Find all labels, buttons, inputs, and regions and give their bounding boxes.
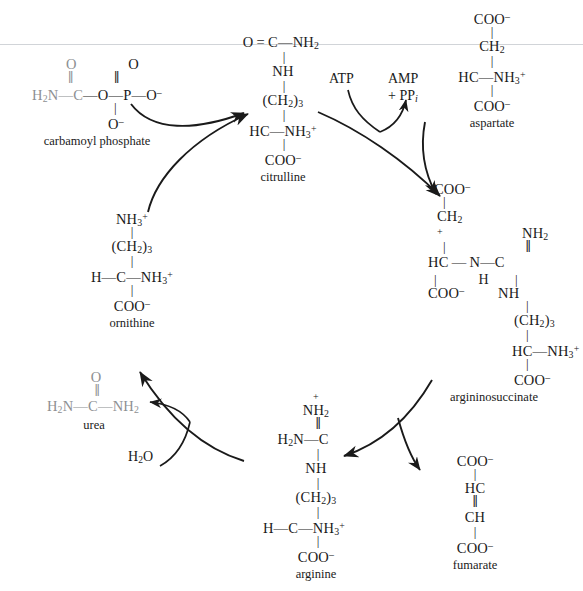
label-urea: urea	[38, 418, 148, 433]
citrulline-ureido-group: O = C—NH2	[222, 33, 340, 51]
carbamoyl-phosphate-carbonyl-oxygen: O O	[8, 55, 186, 73]
label-citrulline: citrulline	[222, 170, 340, 185]
arginine-guanidino-row: H2N—C	[228, 430, 378, 448]
fumarate-bond-1: |	[420, 468, 530, 479]
cofactor-water: H2O	[128, 448, 153, 469]
arginine-bond-1: |	[228, 448, 378, 459]
ornithine-bond-3: |	[72, 284, 192, 295]
citrulline-carboxylate: COO–	[222, 149, 340, 167]
fumarate-bottom-carboxylate: COO–	[420, 537, 530, 555]
arginine-alpha-carbon: H—C—NH3+	[228, 517, 378, 535]
molecule-ornithine: NH3+ | (CH2)3 | H—C—NH3+ | COO– ornithin…	[72, 208, 192, 331]
argininosuccinate-chain: (CH2)3	[420, 311, 583, 329]
ornithine-bond-2: |	[72, 255, 192, 266]
fumarate-double-bond: ∥	[420, 497, 530, 508]
cofactor-amp-line1: AMP	[388, 70, 418, 87]
citrulline-chain: (CH2)3	[222, 91, 340, 109]
molecule-aspartate: COO– | CH2 | HC—NH3+ | COO– aspartate	[432, 8, 550, 131]
label-carbamoyl-phosphate: carbamoyl phosphate	[8, 134, 186, 149]
argininosuccinate-bond-5: |	[420, 329, 583, 340]
arginine-bond-4: |	[228, 535, 378, 546]
molecule-argininosuccinate: COO– | CH2 + NH2 |∥ HC — N—C |H| COO– NH…	[420, 178, 583, 405]
molecule-fumarate: COO– | HC ∥ CH | COO– fumarate	[420, 450, 530, 573]
aspartate-bond-1: |	[432, 26, 550, 37]
carbamoyl-phosphate-lower-oxygen: O–	[8, 113, 186, 131]
ornithine-carboxylate: COO–	[72, 295, 192, 313]
argininosuccinate-chain-carboxylate: COO–	[420, 369, 583, 387]
carbamoyl-phosphate-phosphoryl-oxygen: O	[128, 56, 139, 72]
urea-double-bond: ∥	[38, 386, 148, 397]
arginine-amide-nitrogen: NH	[228, 459, 378, 477]
argininosuccinate-bond-1: |	[420, 196, 583, 207]
aspartate-bond-3: |	[432, 84, 550, 95]
urea-cycle-diagram: O O ∥∥ H2N—C—O—P—O– | O– carbamoyl phosp…	[0, 0, 583, 591]
argininosuccinate-bond-4: |	[420, 300, 583, 311]
arrow-fumarate-out	[398, 418, 420, 470]
carbamoyl-phosphate-backbone: H2N—C—O—P—O–	[8, 84, 186, 102]
arginine-imino-charge: +	[228, 390, 378, 401]
label-aspartate: aspartate	[432, 116, 550, 131]
arrow-water-in	[160, 422, 190, 466]
citrulline-bond-3: |	[222, 109, 340, 120]
aspartate-bond-2: |	[432, 55, 550, 66]
argininosuccinate-methylene-row: CH2 +	[420, 207, 583, 225]
arrow-atp-in	[348, 90, 380, 132]
citrulline-bond-1: |	[222, 51, 340, 62]
arginine-bond-3: |	[228, 506, 378, 517]
arginine-imino-nitrogen: NH2	[228, 401, 378, 419]
citrulline-alpha-carbon: HC—NH3+	[222, 120, 340, 138]
label-fumarate: fumarate	[420, 558, 530, 573]
cofactor-atp: ATP	[329, 70, 354, 87]
arrow-urea-out	[150, 402, 190, 422]
argininosuccinate-bond-3: |H|	[420, 271, 583, 282]
molecule-citrulline: O = C—NH2 | NH | (CH2)3 | HC—NH3+ | COO–…	[222, 33, 340, 185]
carbamoyl-phosphate-double-bond-row: ∥∥	[8, 73, 186, 84]
citrulline-nh: NH	[222, 62, 340, 80]
arginine-double-bond: ∥	[228, 419, 378, 430]
cofactor-amp-ppi: AMP + PPi	[388, 70, 418, 107]
label-argininosuccinate: argininosuccinate	[420, 390, 583, 405]
arginine-chain: (CH2)3	[228, 488, 378, 506]
molecule-urea: O ∥ H2N—C—NH2 urea	[38, 368, 148, 433]
argininosuccinate-bridge-row: HC — N—C	[420, 253, 583, 271]
argininosuccinate-chain-alpha: HC—NH3+	[420, 340, 583, 358]
argininosuccinate-bond-2: |∥	[420, 242, 583, 253]
argininosuccinate-bond-6: |	[420, 358, 583, 369]
molecule-carbamoyl-phosphate: O O ∥∥ H2N—C—O—P—O– | O– carbamoyl phosp…	[8, 55, 186, 149]
aspartate-bottom-carboxylate: COO–	[432, 95, 550, 113]
ornithine-bond-1: |	[72, 226, 192, 237]
arginine-bond-2: |	[228, 477, 378, 488]
argininosuccinate-bottom-row: COO– NH	[420, 282, 583, 300]
fumarate-bond-2: |	[420, 526, 530, 537]
label-ornithine: ornithine	[72, 316, 192, 331]
arginine-carboxylate: COO–	[228, 546, 378, 564]
carbamoyl-phosphate-vertical-bond: |	[8, 102, 186, 113]
urea-backbone: H2N—C—NH2	[38, 397, 148, 415]
citrulline-bond-2: |	[222, 80, 340, 91]
label-arginine: arginine	[228, 567, 378, 582]
molecule-arginine: + NH2 ∥ H2N—C | NH | (CH2)3 | H—C—NH3+ |…	[228, 390, 378, 582]
urea-carbonyl-oxygen: O	[38, 368, 148, 386]
citrulline-bond-4: |	[222, 138, 340, 149]
cofactor-amp-line2: + PPi	[388, 87, 418, 107]
